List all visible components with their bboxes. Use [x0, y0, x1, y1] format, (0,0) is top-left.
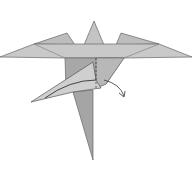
body-right-facet	[96, 58, 124, 88]
right-wing-upper	[116, 33, 159, 45]
tail	[73, 90, 93, 160]
origami-diagram	[0, 0, 196, 170]
head-point	[84, 21, 104, 45]
wing-bar	[0, 44, 192, 58]
left-wing-upper	[34, 33, 75, 45]
